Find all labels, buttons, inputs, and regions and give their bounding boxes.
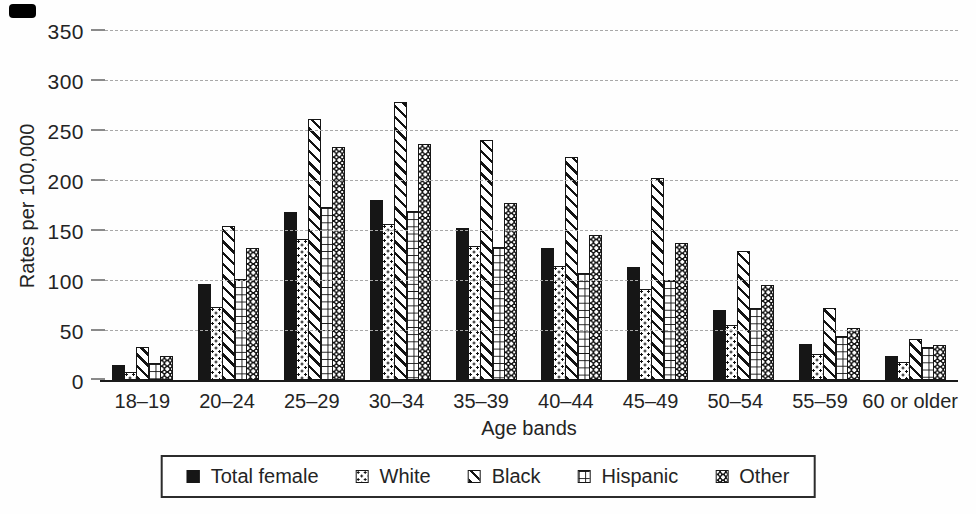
legend-label-black: Black	[492, 465, 541, 488]
legend-swatch-total-female	[187, 470, 200, 483]
legend-swatch-other	[715, 470, 728, 483]
y-tick-label-350: 350	[4, 21, 84, 43]
y-tick-label-100: 100	[4, 271, 84, 293]
bar-other-60-or-older	[933, 345, 946, 380]
y-axis-tick-labels: 050100150200250300350	[0, 32, 92, 382]
y-tick-200	[91, 179, 105, 181]
legend-label-hispanic: Hispanic	[602, 465, 679, 488]
y-tick-label-150: 150	[4, 221, 84, 243]
y-tick-label-50: 50	[4, 321, 84, 343]
bar-other-55-59	[847, 328, 860, 380]
bar-groups	[100, 32, 958, 380]
bar-group-60-or-older	[872, 32, 958, 380]
legend-item-black: Black	[468, 465, 541, 488]
y-tick-label-250: 250	[4, 121, 84, 143]
y-tick-label-200: 200	[4, 171, 84, 193]
y-tick-150	[91, 229, 105, 231]
gridline-150	[100, 230, 958, 231]
y-tick-label-300: 300	[4, 71, 84, 93]
y-tick-350	[91, 29, 105, 31]
bar-other-50-54	[761, 285, 774, 380]
plot-area	[100, 32, 958, 382]
x-tick-label-20-24: 20–24	[185, 390, 270, 413]
gridline-300	[100, 80, 958, 81]
x-axis-title: Age bands	[100, 417, 958, 440]
legend-label-total-female: Total female	[211, 465, 319, 488]
y-tick-250	[91, 129, 105, 131]
scanned-bar-chart-figure: Rates per 100,000 050100150200250300350 …	[0, 0, 976, 514]
x-tick-label-40-44: 40–44	[524, 390, 609, 413]
gridline-50	[100, 330, 958, 331]
bar-group-35-39	[443, 32, 529, 380]
legend-swatch-hispanic	[578, 470, 591, 483]
x-tick-label-30-34: 30–34	[354, 390, 439, 413]
x-tick-label-50-54: 50–54	[693, 390, 778, 413]
bar-other-18-19	[160, 356, 173, 380]
bar-other-25-29	[332, 147, 345, 380]
legend-item-white: White	[356, 465, 431, 488]
legend: Total femaleWhiteBlackHispanicOther	[161, 455, 816, 498]
y-tick-300	[91, 79, 105, 81]
legend-swatch-white	[356, 470, 369, 483]
y-tick-label-0: 0	[4, 371, 84, 393]
x-tick-label-60-or-older: 60 or older	[862, 390, 958, 413]
legend-swatch-black	[468, 470, 481, 483]
bar-other-20-24	[246, 248, 259, 380]
bar-other-40-44	[589, 235, 602, 380]
y-tick-100	[91, 279, 105, 281]
gridline-200	[100, 180, 958, 181]
legend-item-other: Other	[715, 465, 789, 488]
x-tick-label-55-59: 55–59	[778, 390, 863, 413]
x-tick-label-18-19: 18–19	[100, 390, 185, 413]
bar-group-20-24	[186, 32, 272, 380]
x-tick-label-25-29: 25–29	[269, 390, 354, 413]
y-tick-50	[91, 329, 105, 331]
bar-group-40-44	[529, 32, 615, 380]
x-axis-tick-labels: 18–1920–2425–2930–3435–3940–4445–4950–54…	[100, 390, 958, 413]
x-tick-label-45-49: 45–49	[608, 390, 693, 413]
gridline-100	[100, 280, 958, 281]
gridline-250	[100, 130, 958, 131]
scan-artifact-mark	[9, 4, 36, 18]
legend-item-hispanic: Hispanic	[578, 465, 679, 488]
bar-group-18-19	[100, 32, 186, 380]
bar-group-45-49	[615, 32, 701, 380]
bar-other-45-49	[675, 243, 688, 380]
bar-group-50-54	[701, 32, 787, 380]
x-tick-label-35-39: 35–39	[439, 390, 524, 413]
gridline-350	[100, 30, 958, 31]
bar-group-30-34	[357, 32, 443, 380]
y-tick-0	[91, 378, 105, 380]
bar-group-55-59	[786, 32, 872, 380]
legend-label-other: Other	[739, 465, 789, 488]
legend-label-white: White	[380, 465, 431, 488]
legend-item-total-female: Total female	[187, 465, 319, 488]
bar-group-25-29	[272, 32, 358, 380]
